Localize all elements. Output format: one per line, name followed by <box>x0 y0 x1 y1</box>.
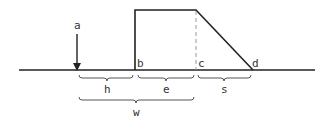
label-d: d <box>252 57 259 70</box>
label-w: w <box>133 106 140 119</box>
label-s: s <box>221 83 228 96</box>
label-h: h <box>104 83 111 96</box>
brace-s <box>198 75 251 81</box>
trapezoid-shape <box>135 10 253 70</box>
diagram-canvas: a b c d h e s w <box>0 0 332 122</box>
brace-w <box>79 97 194 103</box>
label-a: a <box>74 19 81 32</box>
label-b: b <box>137 57 144 70</box>
brace-h <box>79 75 133 81</box>
label-e: e <box>163 83 170 96</box>
label-c: c <box>198 57 205 70</box>
brace-e <box>138 75 194 81</box>
